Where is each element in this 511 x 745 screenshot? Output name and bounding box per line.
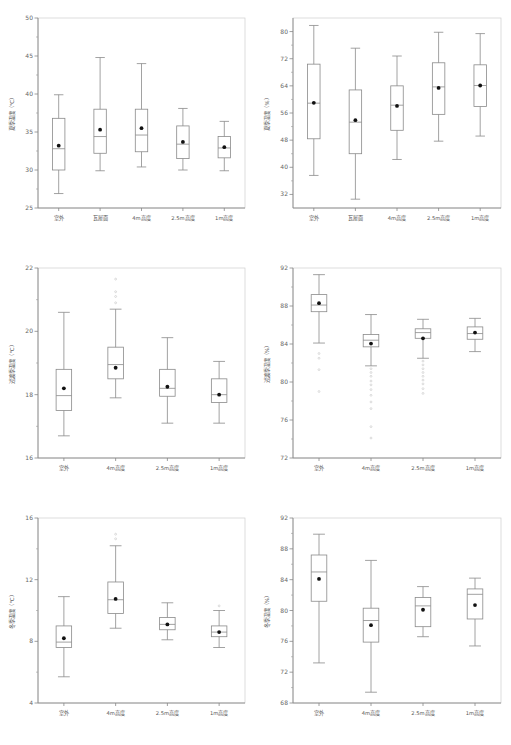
x-category-label: 室外 (54, 214, 64, 222)
boxplot-box (311, 275, 327, 393)
x-category-label: 室外 (314, 464, 324, 472)
boxplot-summer-temperature: 253035404550夏季温度（℃）室外瓦屋面4m高度2.5m高度1m高度 (0, 0, 255, 250)
x-category-label: 2.5m高度 (156, 464, 179, 472)
boxplot-box (415, 319, 431, 394)
boxplot-box (160, 603, 176, 640)
panel-winter-temperature: 481216冬季温度（℃）室外4m高度2.5m高度1m高度 (0, 500, 255, 745)
boxplot-box (467, 318, 483, 351)
x-category-label: 1m高度 (210, 464, 228, 472)
boxplot-box (415, 587, 431, 637)
y-axis-title: 冬季温度（℃） (8, 592, 16, 628)
y-tick-label: 35 (25, 128, 33, 135)
panel-winter-humidity: 68727680848892冬季湿度（%）室外4m高度2.5m高度1m高度 (255, 500, 511, 745)
boxplot-box (218, 121, 230, 170)
panel-summer-humidity: 32404856647280夏季湿度（%）室外瓦屋面4m高度2.5m高度1m高度 (255, 0, 511, 250)
y-tick-label: 92 (280, 264, 288, 271)
x-category-label: 4m高度 (362, 464, 380, 472)
y-tick-label: 30 (25, 166, 33, 173)
boxplot-box (311, 534, 327, 663)
y-tick-label: 88 (280, 545, 288, 552)
x-category-label: 1m高度 (466, 709, 484, 717)
boxplot-box (467, 578, 483, 646)
y-tick-label: 76 (280, 416, 288, 423)
y-tick-label: 80 (280, 378, 288, 385)
plot-frame (38, 268, 245, 458)
y-tick-label: 72 (280, 668, 288, 675)
y-tick-label: 22 (25, 264, 33, 271)
figure-grid: 253035404550夏季温度（℃）室外瓦屋面4m高度2.5m高度1m高度 3… (0, 0, 511, 745)
y-tick-label: 92 (280, 514, 288, 521)
boxplot-box (177, 108, 189, 170)
y-tick-label: 84 (280, 576, 288, 583)
x-category-label: 1m高度 (210, 709, 228, 717)
y-tick-label: 16 (25, 454, 33, 461)
x-category-label: 瓦屋面 (93, 215, 108, 222)
x-category-label: 2.5m高度 (156, 709, 179, 717)
x-category-label: 室外 (59, 464, 69, 472)
y-tick-label: 40 (280, 163, 288, 170)
boxplot-box (308, 25, 320, 175)
boxplot-box (108, 533, 124, 628)
x-category-label: 2.5m高度 (411, 709, 434, 717)
x-category-label: 4m高度 (132, 214, 150, 222)
y-tick-label: 50 (25, 14, 33, 21)
y-tick-label: 40 (25, 90, 33, 97)
x-category-label: 2.5m高度 (427, 214, 450, 222)
boxplot-box (349, 48, 361, 199)
boxplot-box (211, 605, 227, 648)
boxplot-box (52, 95, 64, 194)
x-category-label: 4m高度 (362, 709, 380, 717)
y-axis-title: 夏季湿度（%） (263, 95, 271, 130)
y-tick-label: 8 (29, 637, 33, 644)
y-tick-label: 25 (25, 204, 33, 211)
y-tick-label: 56 (280, 109, 288, 116)
boxplot-box (211, 361, 227, 423)
y-tick-label: 32 (280, 190, 288, 197)
y-tick-label: 80 (280, 607, 288, 614)
boxplot-box (56, 312, 72, 435)
boxplot-box (94, 58, 106, 171)
y-tick-label: 68 (280, 699, 288, 706)
y-axis-title: 过渡季温度（℃） (8, 342, 16, 383)
x-category-label: 1m高度 (466, 464, 484, 472)
boxplot-winter-humidity: 68727680848892冬季湿度（%）室外4m高度2.5m高度1m高度 (255, 500, 511, 745)
y-tick-label: 16 (25, 514, 33, 521)
y-tick-label: 64 (280, 82, 288, 89)
y-tick-label: 4 (29, 699, 33, 706)
y-axis-title: 冬季湿度（%） (263, 593, 271, 628)
boxplot-transition-season-temperature: 16182022过渡季温度（℃）室外4m高度2.5m高度1m高度 (0, 250, 255, 500)
boxplot-box (391, 56, 403, 159)
x-category-label: 室外 (59, 709, 69, 717)
boxplot-box (160, 338, 176, 424)
boxplot-box (363, 315, 379, 439)
x-category-label: 室外 (314, 709, 324, 717)
y-tick-label: 88 (280, 302, 288, 309)
boxplot-winter-temperature: 481216冬季温度（℃）室外4m高度2.5m高度1m高度 (0, 500, 255, 745)
y-axis-title: 过渡季湿度（%） (263, 343, 271, 383)
boxplot-summer-humidity: 32404856647280夏季湿度（%）室外瓦屋面4m高度2.5m高度1m高度 (255, 0, 511, 250)
x-category-label: 4m高度 (106, 709, 124, 717)
y-axis-title: 夏季温度（℃） (8, 95, 16, 131)
y-tick-label: 45 (25, 52, 33, 59)
x-category-label: 4m高度 (106, 464, 124, 472)
boxplot-box (108, 278, 124, 398)
y-tick-label: 84 (280, 340, 288, 347)
boxplot-transition-season-humidity: 727680848892过渡季湿度（%）室外4m高度2.5m高度1m高度 (255, 250, 511, 500)
y-tick-label: 72 (280, 55, 288, 62)
boxplot-box (56, 597, 72, 677)
x-category-label: 1m高度 (471, 214, 489, 222)
boxplot-box (363, 560, 379, 692)
x-category-label: 2.5m高度 (411, 464, 434, 472)
y-tick-label: 18 (25, 391, 33, 398)
x-category-label: 室外 (309, 214, 319, 222)
panel-transition-season-humidity: 727680848892过渡季湿度（%）室外4m高度2.5m高度1m高度 (255, 250, 511, 500)
panel-transition-season-temperature: 16182022过渡季温度（℃）室外4m高度2.5m高度1m高度 (0, 250, 255, 500)
y-tick-label: 48 (280, 136, 288, 143)
x-category-label: 2.5m高度 (171, 214, 194, 222)
y-tick-label: 80 (280, 28, 288, 35)
boxplot-box (135, 64, 147, 167)
y-tick-label: 12 (25, 576, 33, 583)
x-category-label: 瓦屋面 (348, 215, 363, 222)
boxplot-box (474, 34, 486, 136)
boxplot-box (432, 32, 444, 141)
